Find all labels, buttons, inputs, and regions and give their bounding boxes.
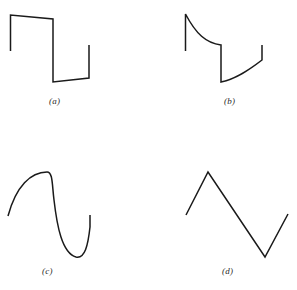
waveform-b-exponential-sawtooth	[186, 14, 263, 82]
waveform-figure: (a) (b) (c) (d)	[0, 0, 297, 290]
waveform-c-sine	[8, 172, 90, 257]
waveform-d-triangle	[186, 172, 288, 257]
waveform-a-square	[11, 15, 90, 82]
caption-panel-c: (c)	[42, 266, 53, 276]
caption-panel-a: (a)	[49, 96, 60, 106]
caption-panel-d: (d)	[222, 266, 233, 276]
waveform-canvas	[0, 0, 297, 290]
caption-panel-b: (b)	[224, 96, 235, 106]
